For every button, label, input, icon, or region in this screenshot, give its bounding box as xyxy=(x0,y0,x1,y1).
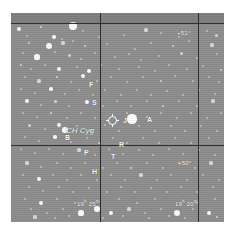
star xyxy=(218,179,220,181)
star-label-t: T xyxy=(111,153,115,160)
star xyxy=(158,142,160,144)
marker-tick-bottom xyxy=(112,124,113,127)
marker-tick-top xyxy=(112,114,113,117)
star xyxy=(214,93,216,95)
star xyxy=(150,94,152,96)
grid-line-horizontal xyxy=(11,145,224,146)
star xyxy=(80,112,82,114)
star xyxy=(92,94,94,96)
star xyxy=(94,154,96,156)
star xyxy=(182,94,184,96)
star xyxy=(22,52,24,54)
star xyxy=(168,148,170,150)
sky-field-plate: CH Cyg FSJABRPTH +51°+50°19h 25m19h 20m xyxy=(11,13,224,222)
star xyxy=(148,217,150,219)
star xyxy=(84,162,86,164)
star xyxy=(68,105,70,107)
star xyxy=(116,100,118,102)
star xyxy=(134,191,136,193)
star xyxy=(211,99,214,102)
star xyxy=(17,27,21,31)
star xyxy=(218,81,220,83)
star xyxy=(72,191,74,193)
star xyxy=(127,114,136,123)
star xyxy=(118,68,120,70)
star xyxy=(220,69,223,72)
star xyxy=(150,42,152,44)
star xyxy=(56,76,59,79)
star xyxy=(40,104,42,106)
star xyxy=(192,80,194,82)
star xyxy=(104,124,106,126)
star xyxy=(134,48,136,50)
star xyxy=(38,140,40,142)
star xyxy=(20,64,23,67)
star xyxy=(30,208,32,210)
star xyxy=(180,186,182,188)
star xyxy=(28,124,31,127)
star xyxy=(220,112,222,114)
star xyxy=(214,198,216,200)
star xyxy=(70,141,72,143)
star xyxy=(114,56,116,58)
star xyxy=(106,43,108,45)
star xyxy=(108,148,110,150)
star xyxy=(24,198,26,200)
star xyxy=(138,66,140,68)
ra-axis-label: 19h 25m xyxy=(77,201,100,208)
star xyxy=(34,54,39,59)
star-label-j: J xyxy=(123,117,127,124)
star xyxy=(34,152,36,154)
star-label-h: H xyxy=(92,168,97,175)
star-label-a: A xyxy=(147,116,152,123)
star xyxy=(48,148,50,150)
star xyxy=(160,208,162,210)
dec-axis-label: +50° xyxy=(178,160,191,167)
star xyxy=(94,52,96,54)
star-label-b: B xyxy=(65,134,70,141)
star xyxy=(70,167,72,169)
star xyxy=(104,89,106,91)
star xyxy=(80,174,82,176)
star xyxy=(188,40,190,42)
star xyxy=(144,28,147,31)
star xyxy=(74,202,76,204)
star xyxy=(126,81,128,83)
marker-tick-right xyxy=(116,120,119,121)
star xyxy=(142,76,144,78)
star xyxy=(68,54,71,57)
star xyxy=(61,41,64,44)
star xyxy=(53,135,57,139)
star xyxy=(61,38,63,40)
star xyxy=(180,52,183,55)
star xyxy=(26,35,28,37)
star xyxy=(216,216,219,219)
star xyxy=(120,94,122,96)
star xyxy=(116,162,118,164)
star xyxy=(77,148,80,151)
star xyxy=(136,89,138,91)
star xyxy=(37,79,40,82)
star xyxy=(85,100,89,104)
star xyxy=(122,153,124,155)
star xyxy=(146,162,148,164)
star xyxy=(140,59,142,61)
star-label-r: R xyxy=(119,141,124,148)
star xyxy=(150,187,152,189)
star xyxy=(118,130,120,132)
star xyxy=(158,55,160,57)
star xyxy=(200,125,202,127)
star xyxy=(202,65,204,67)
star xyxy=(66,179,68,181)
star xyxy=(106,191,108,193)
star xyxy=(186,179,188,181)
star xyxy=(30,68,32,70)
star xyxy=(42,190,44,192)
star xyxy=(146,100,148,102)
star xyxy=(34,92,36,94)
star xyxy=(190,112,192,114)
star xyxy=(110,76,112,78)
star xyxy=(209,161,212,164)
star xyxy=(166,191,168,193)
star xyxy=(46,212,48,214)
